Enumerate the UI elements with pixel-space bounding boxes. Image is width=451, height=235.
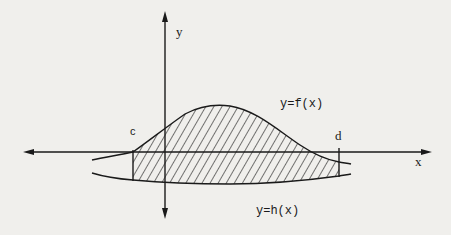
y-axis: [162, 11, 168, 219]
x-axis-right-arrow-icon: [421, 149, 432, 155]
curve-h-label: y=h(x): [256, 205, 299, 217]
bound-c-label: c: [130, 125, 136, 137]
diagram-canvas: [0, 0, 451, 235]
x-axis-left-arrow-icon: [23, 149, 34, 155]
y-axis-down-arrow-icon: [162, 208, 168, 219]
y-axis-label: y: [176, 26, 183, 38]
area-between-curves-diagram: y x y=f(x) y=h(x) c d: [0, 0, 451, 235]
y-axis-up-arrow-icon: [162, 11, 168, 22]
curve-f-label: y=f(x): [280, 98, 323, 110]
bound-d-label: d: [335, 130, 342, 142]
x-axis-label: x: [415, 156, 422, 168]
